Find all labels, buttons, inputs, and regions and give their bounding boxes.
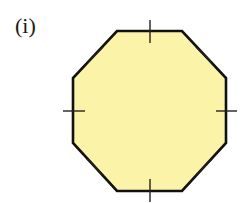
- octagon-figure: [0, 0, 247, 203]
